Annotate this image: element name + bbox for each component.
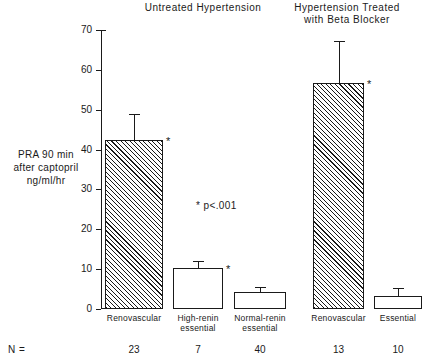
bar-3 <box>234 292 286 309</box>
plot-area: *** <box>101 30 407 309</box>
y-axis-tick-label: 70 <box>66 25 92 35</box>
significance-marker-2: * <box>226 264 230 275</box>
n-value-3: 40 <box>240 345 280 355</box>
significance-marker-4: * <box>367 79 371 90</box>
category-label-5: Essential <box>358 313 426 323</box>
error-bar-stem-3 <box>260 288 261 292</box>
y-axis-tick-label: 10 <box>66 264 92 274</box>
bar-4 <box>313 83 364 309</box>
y-axis-tick-label: 0 <box>66 304 92 314</box>
y-axis-tick <box>96 309 101 310</box>
error-bar-stem-5 <box>398 289 399 296</box>
n-value-5: 10 <box>378 345 418 355</box>
y-axis-tick-label: 50 <box>66 105 92 115</box>
n-value-4: 13 <box>319 345 359 355</box>
group-header-treated: Hypertension Treated with Beta Blocker <box>288 2 406 26</box>
error-bar-cap-3 <box>255 287 266 288</box>
error-bar-cap-4 <box>334 41 345 42</box>
error-bar-stem-4 <box>339 42 340 83</box>
error-bar-cap-2 <box>193 261 204 262</box>
p-value-annotation: * p<.001 <box>196 200 237 211</box>
error-bar-stem-2 <box>198 262 199 268</box>
bar-1 <box>105 140 163 309</box>
bar-2 <box>173 268 223 309</box>
y-axis-tick-label: 20 <box>66 224 92 234</box>
error-bar-stem-1 <box>134 115 135 141</box>
y-axis-tick-label: 60 <box>66 65 92 75</box>
category-label-3: Normal-renin essential <box>220 313 300 333</box>
group-header-untreated: Untreated Hypertension <box>118 2 288 14</box>
error-bar-cap-1 <box>129 114 140 115</box>
y-axis-title: PRA 90 min after captopril ng/ml/hr <box>4 148 88 187</box>
n-value-1: 23 <box>114 345 154 355</box>
bar-5 <box>374 296 422 309</box>
n-value-2: 7 <box>178 345 218 355</box>
error-bar-cap-5 <box>393 288 404 289</box>
significance-marker-1: * <box>166 136 170 147</box>
n-row-label: N = <box>8 345 25 355</box>
